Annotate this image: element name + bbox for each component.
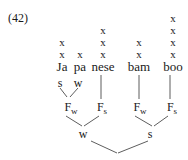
branch-fs1-w <box>84 116 99 126</box>
branch-s-root <box>118 141 148 153</box>
branch-fw2-s <box>135 116 152 126</box>
branch-s-fw1 <box>60 88 67 97</box>
branch-w-fw1 <box>70 88 78 97</box>
branch-fw1-w <box>66 116 82 126</box>
branch-fs2-s <box>154 116 168 126</box>
branch-w-root <box>91 141 117 153</box>
tree-branches <box>0 0 188 160</box>
